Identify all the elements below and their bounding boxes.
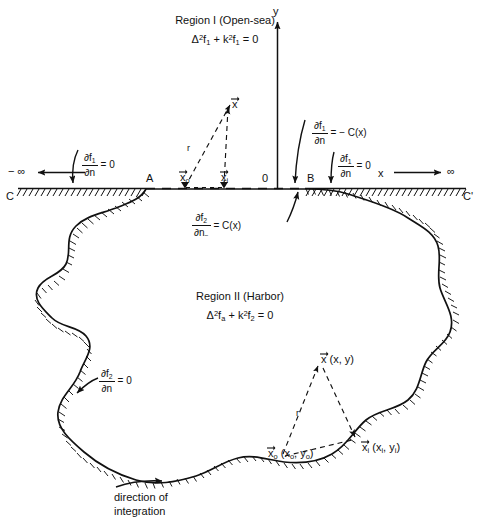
figure-canvas: Region I (Open-sea) Δ2f1 + k2f1 = 0 y − … — [0, 0, 482, 522]
point-a-label: A — [146, 172, 153, 185]
vector-x-upper-label: x — [232, 97, 238, 111]
bc-interface-lower: ∂f2 ∂n− = C(x) — [192, 212, 241, 239]
lower-vector-triangle — [283, 366, 355, 456]
contour-c-prime-label: C' — [463, 190, 473, 203]
plus-infinity-label: ∞ — [447, 165, 455, 178]
vector-x-o-lower-label: xo (xo, yo) — [268, 446, 314, 462]
region-1-equation: Δ2f1 + k2f1 = 0 — [150, 33, 300, 48]
bc-harbor-wall: ∂f2 ∂n = 0 — [99, 368, 132, 394]
vector-x-i-upper-label: xi — [221, 170, 228, 186]
vector-x-lower-label: x (x, y) — [321, 352, 354, 366]
minus-infinity-label: − ∞ — [8, 165, 25, 178]
region-2-title: Region II (Harbor) — [165, 290, 315, 303]
vector-x-i-lower-label: xi (xi, yi) — [362, 440, 400, 456]
integration-caption-line1: direction of — [114, 491, 168, 504]
harbor-wall-bc-arrow — [77, 378, 98, 393]
integration-caption-line2: integration — [114, 505, 165, 518]
r-lower-label: r — [296, 408, 299, 418]
origin-label: 0 — [262, 172, 268, 185]
vector-x-o-upper-label: xo — [180, 170, 190, 186]
r-upper-label: r — [187, 143, 190, 153]
interface-arrows — [287, 120, 305, 222]
bc-open-sea-right: ∂f1 ∂n = 0 — [338, 153, 371, 179]
bc-interface-upper: ∂f1 ∂n = − C(x) — [312, 120, 367, 146]
x-axis-label: x — [378, 167, 384, 180]
diagram-artwork — [0, 0, 482, 522]
point-b-label: B — [307, 172, 314, 185]
bc-open-sea-left: ∂f1 ∂n = 0 — [82, 152, 115, 178]
contour-c-label: C — [6, 190, 14, 203]
region-2-equation: Δ2fa + k2f2 = 0 — [165, 309, 315, 324]
y-axis-label: y — [273, 5, 279, 18]
